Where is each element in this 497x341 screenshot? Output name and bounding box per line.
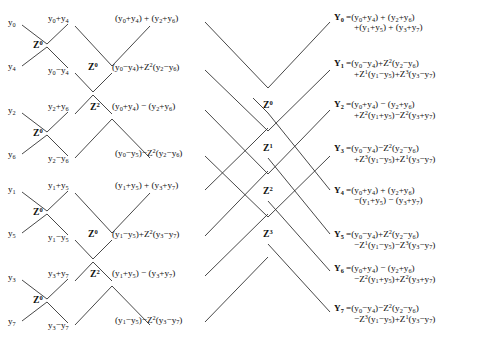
output-line1-Y0: (y0+y4) + (y2+y6) (351, 12, 414, 22)
output-line1-Y4: (y0+y4) + (y2+y6) (351, 185, 414, 195)
output-head-Y7: Y7 = (334, 303, 351, 313)
stage1-output-y3-minus-y7: y3−y7 (48, 321, 69, 331)
output-line2-Y1: +Z1(y1−y5)+Z3(y3−y7) (354, 69, 435, 80)
output-line1-Y1: (y0−y4)+Z2(y2−y6) (351, 58, 418, 68)
input-label-y7: y7 (8, 317, 16, 327)
stage1-twiddle-z0-c: Z0 (33, 207, 43, 217)
stage1-twiddle-z0-b: Z0 (33, 128, 43, 138)
flow-edge (75, 240, 93, 259)
output-line1-Y5: (y0−y4)+Z2(y2−y6) (351, 229, 418, 239)
flow-edge (205, 110, 268, 174)
stage3-twiddle-z0-mid: Z0 (263, 100, 273, 110)
output-expression-Y7: Y7 =(y0−y4)−Z2(y2−y6)−Z3(y1−y5)+Z1(y3−y7… (334, 303, 435, 325)
stage1-output-y2-plus-y6: y2+y6 (48, 102, 69, 112)
output-expression-Y4: Y4 =(y0+y4) + (y2+y6)−(y1+y5) − (y3+y7) (334, 186, 422, 206)
stage2-expression-expr-e: (y1+y5) + (y3+y7) (115, 181, 178, 191)
flow-edge (268, 113, 330, 190)
output-line1-Y3: (y0−y4)−Z2(y2−y6) (351, 143, 418, 153)
stage2-expression-expr-f: (y1−y5)+Z2(y3−y7) (112, 229, 179, 240)
stage1-output-y0-minus-y4: y0−y4 (48, 66, 69, 76)
flow-edge (205, 22, 268, 88)
flow-edge (93, 73, 112, 92)
stage2-expression-expr-d: (y0−y5)−Z2(y2−y6) (115, 148, 182, 159)
output-expression-Y0: Y0 =(y0+y4) + (y2+y6)+(y1+y5) + (y3+y7) (334, 13, 422, 33)
stage2-twiddle-z0-bot: Z0 (88, 229, 98, 239)
flow-edge (47, 112, 68, 132)
output-head-Y1: Y1 = (334, 58, 351, 68)
output-head-Y0: Y0 = (334, 12, 351, 22)
input-label-y3: y3 (8, 273, 16, 283)
output-line2-Y2: +Z2(y1+y5)−Z2(y3+y7) (354, 110, 435, 121)
stage2-twiddle-z2-bot: Z2 (90, 269, 100, 279)
flow-edge (47, 24, 68, 44)
flow-edge (47, 191, 68, 211)
input-label-y4: y4 (8, 62, 16, 72)
output-expression-Y2: Y2 =(y0+y4) − (y2+y6)+Z2(y1+y5)−Z2(y3+y7… (334, 100, 435, 121)
output-line1-Y7: (y0−y4)−Z2(y2−y6) (351, 303, 418, 313)
flow-edge (268, 201, 330, 271)
stage1-output-y1-minus-y5: y1−y5 (48, 233, 69, 243)
flow-edge (75, 119, 112, 158)
stage2-expression-expr-h: (y1−y5)−Z2(y3−y7) (115, 315, 182, 326)
stage1-twiddle-z0-a: Z0 (33, 40, 43, 50)
flow-edge (268, 22, 330, 88)
flow-edge (205, 156, 268, 217)
stage1-output-y0-plus-y4: y0+y4 (48, 14, 69, 24)
output-expression-Y6: Y6 =(y0+y4) − (y2+y6)−Z2(y1+y5)+Z2(y3+y7… (334, 264, 435, 285)
flow-edge (47, 279, 68, 299)
stage3-twiddle-z3-mid: Z3 (263, 229, 273, 239)
input-label-y2: y2 (8, 106, 16, 116)
flow-edge (268, 244, 330, 312)
output-head-Y6: Y6 = (334, 263, 351, 273)
stage2-expression-expr-c: (y0+y4) − (y2+y6) (112, 102, 175, 112)
flow-edge (268, 70, 330, 131)
stage3-twiddle-z2-mid: Z2 (263, 186, 273, 196)
stage1-output-y3-plus-y7: y3+y7 (48, 269, 69, 279)
stage1-output-y2-minus-y6: y2−y6 (48, 154, 69, 164)
flow-edge (75, 26, 112, 66)
input-label-y0: y0 (8, 18, 16, 28)
input-label-y1: y1 (8, 185, 16, 195)
flow-edge (268, 110, 330, 174)
stage2-expression-expr-g: (y1+y5) − (y3+y7) (112, 269, 175, 279)
flow-edge (205, 70, 268, 131)
flow-edge (268, 158, 330, 234)
flow-edge (75, 73, 93, 92)
output-line2-Y6: −Z2(y1+y5)+Z2(y3+y7) (354, 274, 435, 285)
output-line1-Y2: (y0+y4) − (y2+y6) (351, 99, 414, 109)
output-line1-Y6: (y0+y4) − (y2+y6) (351, 263, 414, 273)
flow-edge (112, 193, 150, 233)
input-label-y6: y6 (8, 150, 16, 160)
stage2-expression-expr-b: (y0−y4)+Z2(y2−y6) (112, 62, 179, 73)
flow-edge (75, 193, 112, 233)
input-label-y5: y5 (8, 229, 16, 239)
stage2-twiddle-z2-top: Z2 (90, 102, 100, 112)
stage1-output-y1-plus-y5: y1+y5 (48, 181, 69, 191)
stage1-twiddle-z0-d: Z0 (33, 295, 43, 305)
output-line2-Y0: +(y1+y5) + (y3+y7) (354, 23, 422, 33)
flow-edge (75, 286, 112, 325)
output-head-Y5: Y5 = (334, 229, 351, 239)
output-line2-Y4: −(y1+y5) − (y3+y7) (354, 196, 422, 206)
output-head-Y4: Y4 = (334, 185, 351, 195)
output-line2-Y5: −Z1(y1−y5)−Z3(y3−y7) (354, 240, 435, 251)
fft-butterfly-diagram: y0y4y2y6y1y5y3y7Z0Z0Z0Z0y0+y4y0−y4y2+y6y… (0, 0, 497, 341)
stage2-expression-expr-a: (y0+y4) + (y2+y6) (115, 14, 178, 24)
flow-edge (93, 240, 112, 259)
output-head-Y2: Y2 = (334, 99, 351, 109)
output-line2-Y7: −Z3(y1−y5)+Z1(y3−y7) (354, 314, 435, 325)
output-expression-Y1: Y1 =(y0−y4)+Z2(y2−y6)+Z1(y1−y5)+Z3(y3−y7… (334, 58, 435, 80)
stage2-twiddle-z0-top: Z0 (88, 62, 98, 72)
output-expression-Y5: Y5 =(y0−y4)+Z2(y2−y6)−Z1(y1−y5)−Z3(y3−y7… (334, 229, 435, 251)
output-head-Y3: Y3 = (334, 143, 351, 153)
output-line2-Y3: +Z3(y1−y5)+Z1(y3−y7) (354, 154, 435, 165)
flow-edge (253, 128, 268, 143)
flow-edge (205, 143, 253, 190)
flow-edge (268, 156, 330, 217)
output-expression-Y3: Y3 =(y0−y4)−Z2(y2−y6)+Z3(y1−y5)+Z1(y3−y7… (334, 143, 435, 165)
flow-edge (112, 26, 150, 66)
stage3-twiddle-z1-mid: Z1 (263, 143, 273, 153)
signal-flow-lines (0, 0, 497, 341)
